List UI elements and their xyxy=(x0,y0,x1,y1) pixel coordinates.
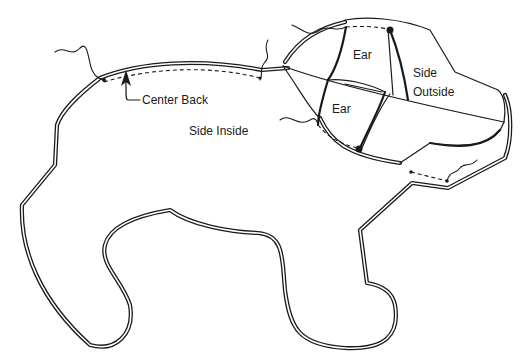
ear-bottom-piece xyxy=(318,80,390,148)
seam-dot-chin-left xyxy=(409,170,413,174)
center-back-arrow xyxy=(121,70,140,100)
thread-ends xyxy=(55,25,477,181)
label-side-outside-line1: Side xyxy=(413,66,437,80)
side-inside-outline xyxy=(22,63,510,348)
label-ear-bottom: Ear xyxy=(332,102,351,116)
label-side-inside: Side Inside xyxy=(189,124,248,138)
seam-dot-head xyxy=(387,27,394,34)
chin-seam xyxy=(411,172,447,181)
label-ear-top: Ear xyxy=(353,48,372,62)
label-side-outside-line2: Outside xyxy=(413,85,454,99)
head-seam xyxy=(346,26,390,30)
seam-dot-ear xyxy=(356,146,363,153)
sewing-pattern-diagram xyxy=(0,0,525,358)
label-center-back: Center Back xyxy=(142,93,208,107)
